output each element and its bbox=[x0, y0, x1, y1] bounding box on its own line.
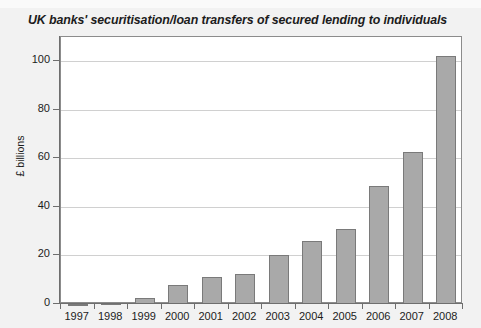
x-axis-tick-label: 2003 bbox=[261, 310, 295, 322]
y-axis-tick-label: 60 bbox=[6, 150, 50, 162]
x-axis-tick bbox=[295, 304, 296, 309]
x-axis-tick bbox=[228, 304, 229, 309]
x-axis-tick bbox=[395, 304, 396, 309]
chart-title: UK banks' securitisation/loan transfers … bbox=[28, 13, 468, 27]
x-axis-tick bbox=[429, 304, 430, 309]
bar bbox=[436, 56, 456, 304]
x-axis-tick-label: 2001 bbox=[194, 310, 228, 322]
y-axis-tick-label: 40 bbox=[6, 199, 50, 211]
x-axis-tick-label: 2007 bbox=[395, 310, 429, 322]
y-axis-tick-label-wrap: 80 bbox=[0, 109, 50, 110]
bar bbox=[403, 152, 423, 304]
y-axis-tick-label-wrap: 20 bbox=[0, 254, 50, 255]
gridline bbox=[61, 158, 461, 159]
y-axis-tick-label: 0 bbox=[6, 296, 50, 308]
x-axis-tick-label: 1999 bbox=[127, 310, 161, 322]
y-axis-tick-label: 80 bbox=[6, 102, 50, 114]
y-axis-tick-label-wrap: 40 bbox=[0, 206, 50, 207]
bar bbox=[269, 255, 289, 304]
x-axis-tick bbox=[161, 304, 162, 309]
x-axis-tick bbox=[261, 304, 262, 309]
gridline bbox=[61, 255, 461, 256]
y-axis-tick bbox=[53, 206, 59, 207]
bar bbox=[302, 241, 322, 304]
y-axis-line bbox=[59, 36, 60, 304]
bar bbox=[202, 277, 222, 304]
gridlines bbox=[61, 37, 461, 302]
x-axis-tick-label: 2000 bbox=[161, 310, 195, 322]
bar bbox=[235, 274, 255, 304]
x-axis-tick-label: 1997 bbox=[60, 310, 94, 322]
y-axis-tick bbox=[53, 157, 59, 158]
y-axis-tick bbox=[53, 109, 59, 110]
x-axis-tick bbox=[94, 304, 95, 309]
x-axis-tick-label: 2004 bbox=[295, 310, 329, 322]
x-axis-tick-label: 1998 bbox=[94, 310, 128, 322]
x-axis-tick bbox=[60, 304, 61, 309]
bar bbox=[168, 285, 188, 304]
x-axis-tick-label: 2002 bbox=[228, 310, 262, 322]
x-axis-tick bbox=[362, 304, 363, 309]
x-axis-tick-label: 2006 bbox=[362, 310, 396, 322]
y-axis-title: £ billions bbox=[14, 116, 26, 196]
gridline bbox=[61, 61, 461, 62]
chart-figure: UK banks' securitisation/loan transfers … bbox=[0, 0, 481, 328]
x-axis-tick-label: 2005 bbox=[328, 310, 362, 322]
y-axis-tick-label-wrap: 100 bbox=[0, 60, 50, 61]
x-axis-tick bbox=[194, 304, 195, 309]
bar bbox=[336, 229, 356, 304]
bar bbox=[369, 186, 389, 304]
x-axis-tick-label: 2008 bbox=[429, 310, 463, 322]
plot-area bbox=[60, 36, 462, 303]
x-axis-tick bbox=[328, 304, 329, 309]
y-axis-tick bbox=[53, 60, 59, 61]
y-axis-tick-label-wrap: 0 bbox=[0, 303, 50, 304]
gridline bbox=[61, 110, 461, 111]
x-axis-tick bbox=[127, 304, 128, 309]
figure-top-band bbox=[0, 0, 481, 8]
y-axis-tick-label: 20 bbox=[6, 247, 50, 259]
y-axis-tick-label: 100 bbox=[6, 53, 50, 65]
gridline bbox=[61, 207, 461, 208]
y-axis-tick bbox=[53, 254, 59, 255]
x-axis-tick bbox=[462, 304, 463, 309]
